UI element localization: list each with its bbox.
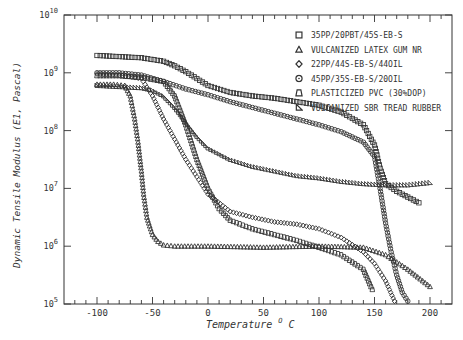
x-tick-label: 200	[422, 308, 438, 318]
triangle-marker-icon	[296, 46, 302, 52]
diamond-marker-icon	[296, 61, 302, 68]
legend-label: 35PP/20PBT/45S-EB-S	[311, 31, 403, 40]
legend: 35PP/20PBT/45S-EB-SVULCANIZED LATEX GUM …	[296, 31, 441, 113]
x-axis-tick-labels: -100-50050100150200	[86, 308, 438, 318]
x-tick-label: 50	[258, 308, 269, 318]
bell-marker-icon	[296, 90, 302, 96]
x-tick-label: -50	[144, 308, 160, 318]
x-axis-label: Temperature O C	[206, 314, 295, 330]
y-tick-label: 107	[44, 180, 58, 193]
circle-marker-icon	[296, 75, 302, 81]
legend-label: 22PP/44S-EB-S/44OIL	[311, 60, 403, 69]
legend-item: VULCANIZED SBR TREAD RUBBER	[296, 104, 441, 113]
y-tick-label: 108	[44, 123, 58, 136]
x-tick-label: 100	[311, 308, 327, 318]
legend-label: PLASTICIZED PVC (30%DOP)	[311, 89, 427, 98]
y-tick-label: 1010	[39, 7, 58, 20]
legend-item: 35PP/20PBT/45S-EB-S	[296, 31, 403, 40]
y-axis-label: Dynamic Tensile Modulus (E1, Pascal)	[11, 62, 22, 269]
legend-item: 45PP/35S-EB-S/20OIL	[296, 75, 403, 84]
legend-item: VULCANIZED LATEX GUM NR	[296, 46, 422, 55]
y-tick-label: 109	[44, 65, 58, 78]
x-tick-label: 0	[205, 308, 210, 318]
legend-label: VULCANIZED LATEX GUM NR	[311, 46, 422, 55]
x-tick-label: 150	[366, 308, 382, 318]
legend-item: 22PP/44S-EB-S/44OIL	[296, 60, 403, 69]
modulus-temperature-chart: -100-50050100150200 1010109108107106105 …	[0, 0, 463, 340]
legend-label: VULCANIZED SBR TREAD RUBBER	[311, 104, 441, 113]
y-tick-label: 105	[44, 296, 58, 309]
square-marker-icon	[296, 32, 302, 38]
y-tick-label: 106	[44, 238, 58, 251]
legend-label: 45PP/35S-EB-S/20OIL	[311, 75, 403, 84]
x-tick-label: -100	[86, 308, 108, 318]
y-axis-tick-labels: 1010109108107106105	[39, 7, 58, 309]
legend-item: PLASTICIZED PVC (30%DOP)	[296, 89, 427, 98]
